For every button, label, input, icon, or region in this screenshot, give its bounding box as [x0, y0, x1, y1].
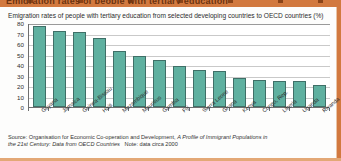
- decorative-bottom-edge: [0, 158, 341, 161]
- source-note: Source: Organisation for Economic Co-ope…: [8, 134, 330, 148]
- y-tick-label: 70: [17, 31, 24, 37]
- y-axis-labels: 01020304050607080: [2, 24, 26, 108]
- source-italic-title-2: the 21st Century: Data from OECD Countri…: [8, 141, 120, 147]
- figure-container: Emigration rates of people with tertiary…: [0, 0, 341, 161]
- clipped-heading: Emigration rates of people with tertiary…: [6, 0, 306, 4]
- source-text-1: Source: Organisation for Economic Co-ope…: [8, 134, 177, 140]
- y-tick-label: 80: [17, 21, 24, 27]
- bar[interactable]: [33, 26, 46, 107]
- y-tick-label: 30: [17, 73, 24, 79]
- bar-slot: [229, 23, 249, 107]
- source-italic-title-1: A Profile of Immigrant Populations in: [177, 134, 267, 140]
- bar-slot: [110, 23, 130, 107]
- source-data-note: Note: data circa 2000: [125, 141, 178, 147]
- y-tick-label: 20: [17, 84, 24, 90]
- bar[interactable]: [193, 70, 206, 107]
- bar-slot: [70, 23, 90, 107]
- bar[interactable]: [113, 51, 126, 107]
- bar-slot: [170, 23, 190, 107]
- bar-slot: [30, 23, 50, 107]
- y-tick-label: 0: [21, 105, 24, 111]
- x-axis-labels: GuyanaJamaicaGuinea-BissauHaitiMozambiqu…: [28, 109, 329, 135]
- y-tick-label: 50: [17, 52, 24, 58]
- y-tick-label: 10: [17, 94, 24, 100]
- decorative-right-edge: [337, 0, 341, 161]
- bar-slot: [50, 23, 70, 107]
- bar-slot: [190, 23, 210, 107]
- bar-slot: [249, 23, 269, 107]
- chart-title: Emigration rates of people with tertiary…: [8, 12, 334, 20]
- y-tick-label: 60: [17, 42, 24, 48]
- decorative-right-edge-inner: [336, 7, 337, 161]
- y-tick-label: 40: [17, 63, 24, 69]
- bar-slot: [289, 23, 309, 107]
- bar-slot: [309, 23, 329, 107]
